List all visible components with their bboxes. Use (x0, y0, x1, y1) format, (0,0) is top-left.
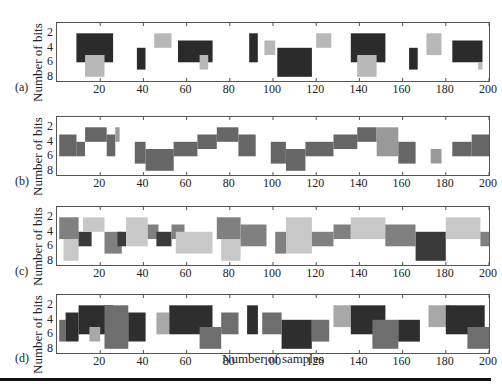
heatmap-block (357, 55, 376, 77)
heatmap-block (59, 320, 65, 342)
x-tick-label: 120 (300, 82, 330, 97)
heatmap-block (467, 327, 489, 349)
heatmap-block (85, 55, 104, 77)
x-tick-label: 100 (257, 82, 287, 97)
heatmap-block (357, 127, 376, 142)
heatmap-block (446, 217, 481, 239)
heatmap-block (275, 232, 286, 254)
heatmap-block (221, 313, 238, 335)
panel-label: (d) (15, 351, 29, 366)
x-tick-label: 180 (430, 82, 460, 97)
heatmap-block (76, 142, 85, 157)
heatmap-block (135, 142, 146, 164)
x-tick-label: 60 (171, 82, 201, 97)
x-tick-label: 20 (84, 354, 114, 369)
heatmap-block (264, 41, 275, 56)
heatmap-block (174, 142, 198, 157)
x-tick-label: 80 (214, 82, 244, 97)
heatmap-block (312, 320, 329, 342)
heatmap-block (156, 313, 169, 335)
heatmap-block (115, 127, 119, 142)
heatmap-block (156, 232, 171, 247)
heatmap-block (452, 142, 471, 157)
heatmap-block (85, 127, 107, 142)
x-tick-label: 160 (387, 176, 417, 191)
heatmap-block (107, 135, 116, 157)
heatmap-block (316, 33, 331, 48)
heatmap-block (398, 142, 415, 164)
x-tick-label: 40 (127, 82, 157, 97)
heatmap-block (334, 305, 351, 327)
heatmap-block (200, 327, 222, 349)
heatmap-block (154, 33, 171, 48)
x-tick-label: 20 (84, 176, 114, 191)
heatmap-block (262, 313, 281, 335)
heatmap-block (249, 33, 258, 62)
x-tick-label: 160 (387, 354, 417, 369)
x-tick-label: 100 (257, 176, 287, 191)
heatmap-block (334, 135, 358, 150)
plot-area (56, 22, 490, 82)
x-tick-label: 40 (127, 266, 157, 281)
heatmap-block (282, 320, 312, 349)
heatmap-block (59, 217, 78, 239)
heatmap-block (334, 225, 351, 240)
heatmap-block (385, 225, 415, 247)
heatmap-block (426, 33, 441, 55)
heatmap-block (79, 232, 92, 247)
x-tick-label: 60 (171, 266, 201, 281)
heatmap-cells (57, 207, 489, 265)
heatmap-block (217, 127, 239, 142)
x-tick-label: 60 (171, 354, 201, 369)
x-tick-label: 140 (343, 176, 373, 191)
heatmap-block (452, 41, 482, 63)
heatmap-block (431, 149, 442, 164)
heatmap-block (137, 48, 146, 70)
y-axis-label: Number of bits (30, 207, 46, 286)
x-tick-label: 200 (473, 354, 502, 369)
x-tick-label: 200 (473, 266, 502, 281)
heatmap-block (478, 62, 482, 69)
x-tick-label: 140 (343, 354, 373, 369)
heatmap-block (128, 313, 145, 342)
heatmap-block (416, 232, 446, 261)
heatmap-block (176, 232, 213, 254)
x-tick-label: 140 (343, 82, 373, 97)
y-axis-label: Number of bits (30, 23, 46, 102)
x-tick-label: 80 (214, 176, 244, 191)
heatmap-block (200, 55, 209, 70)
x-tick-label: 120 (300, 176, 330, 191)
plot-area (56, 116, 490, 176)
plot-area (56, 294, 490, 354)
panel-label: (a) (15, 80, 28, 95)
x-tick-label: 180 (430, 266, 460, 281)
heatmap-cells (57, 23, 489, 81)
y-axis-label: Number of bits (30, 117, 46, 196)
heatmap-block (480, 232, 489, 247)
x-tick-label: 60 (171, 176, 201, 191)
x-tick-label: 40 (127, 176, 157, 191)
x-tick-label: 80 (214, 266, 244, 281)
bottom-rule (0, 378, 491, 381)
heatmap-block (305, 142, 333, 157)
heatmap-block (372, 320, 398, 349)
x-tick-label: 180 (430, 176, 460, 191)
x-tick-label: 20 (84, 266, 114, 281)
heatmap-block (247, 305, 258, 334)
heatmap-cells (57, 117, 489, 175)
plot-area (56, 206, 490, 266)
heatmap-block (83, 217, 105, 232)
heatmap-block (59, 135, 76, 157)
heatmap-block (126, 217, 148, 246)
heatmap-block (277, 48, 312, 77)
panel-label: (c) (15, 264, 28, 279)
heatmap-block (377, 127, 399, 156)
x-tick-label: 140 (343, 266, 373, 281)
heatmap-block (146, 149, 174, 171)
heatmap-block (312, 232, 334, 247)
heatmap-block (271, 142, 286, 164)
y-axis-label: Number of bits (30, 295, 46, 374)
heatmap-block (238, 135, 255, 157)
heatmap-block (105, 305, 129, 349)
heatmap-block (217, 217, 241, 239)
